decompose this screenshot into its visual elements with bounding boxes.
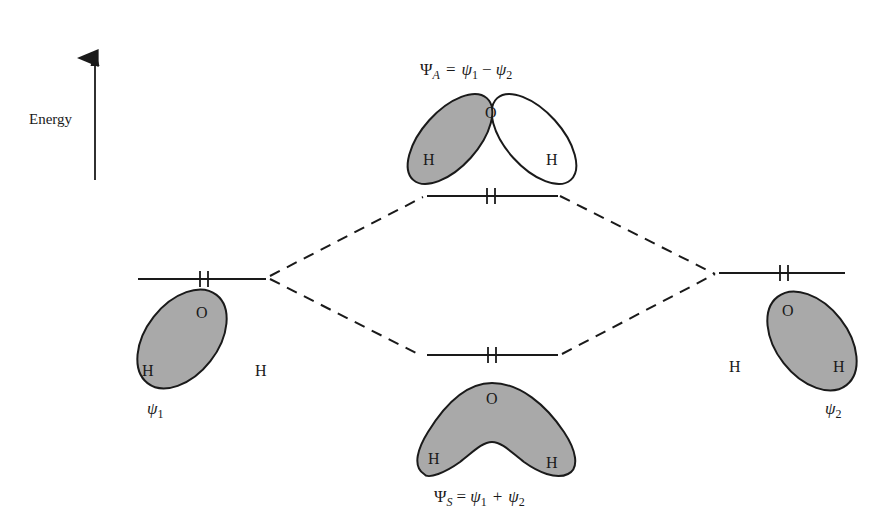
correlation-line-psiA-psi2 [560,196,715,274]
orbital-lobe-shaded [392,79,507,198]
orbital-label-psi1: ψ1 [147,399,164,421]
atom-H: H [255,362,267,379]
orbital-label-psi2: ψ2 [825,399,842,421]
energy-level-psiA [427,188,558,204]
energy-level-psiS [427,347,558,363]
orbital-psiS: O H H ΨS=ψ1+ψ2 [417,383,575,509]
atom-H: H [546,151,558,168]
atom-H: H [142,362,154,379]
atom-O: O [196,304,208,321]
atom-H: H [729,358,741,375]
atom-O: O [782,302,794,319]
atom-H: H [423,151,435,168]
equation-psiS: ΨS=ψ1+ψ2 [434,487,525,509]
orbital-energy-diagram: Energy [0,0,882,526]
correlation-line-psi1-psiS [270,279,418,354]
atom-O: O [486,390,498,407]
orbital-psi1: O H H ψ1 [119,273,267,421]
orbital-psiA: ΨA=ψ1−ψ2 O H H [392,60,591,199]
correlation-line-psi1-psiA [270,197,423,276]
energy-arrowhead-icon [91,51,100,66]
orbital-lobe-shaded [119,273,245,406]
energy-axis-label: Energy [29,111,73,127]
atom-H: H [833,358,845,375]
equation-psiA: ΨA=ψ1−ψ2 [420,60,512,82]
energy-level-psi1 [138,271,266,287]
energy-axis: Energy [29,51,100,180]
atom-H: H [546,454,558,471]
correlation-line-psiS-psi2 [562,274,715,354]
atom-H: H [428,450,440,467]
atom-O: O [485,104,497,121]
correlation-lines [270,196,715,354]
orbital-psi2: O H H ψ2 [729,275,875,421]
energy-level-psi2 [719,265,845,281]
orbital-lobe-shaded [749,275,875,408]
orbital-lobe-unshaded [476,79,591,198]
